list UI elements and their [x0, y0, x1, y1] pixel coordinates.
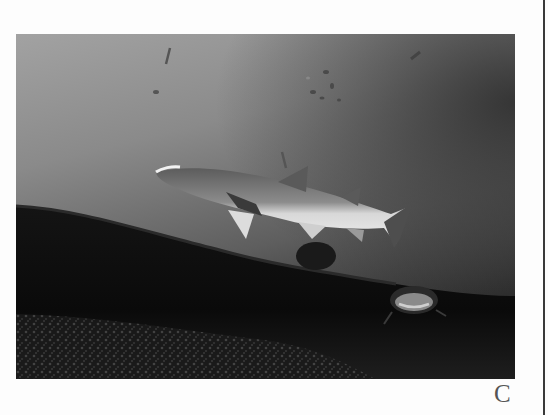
- page-edge-line: [543, 0, 545, 415]
- shark-photo-illustration: [16, 34, 515, 379]
- figure-label: C: [494, 381, 511, 406]
- document-page: C: [0, 0, 548, 415]
- figure-photo: [16, 34, 515, 379]
